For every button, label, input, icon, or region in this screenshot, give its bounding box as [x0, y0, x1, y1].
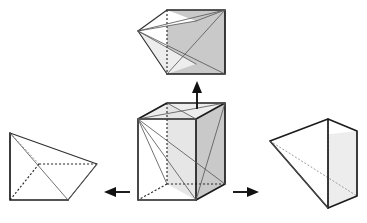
figure-root [0, 0, 367, 223]
pyramid-right[interactable] [270, 119, 357, 208]
pyramid-top[interactable] [138, 10, 225, 74]
central-cube[interactable] [138, 103, 225, 200]
arrow-left [104, 187, 130, 197]
pyramid-right-front-face [270, 119, 328, 208]
geometry-diagram [0, 0, 367, 223]
arrow-right [233, 187, 259, 197]
pyramid-left[interactable] [10, 133, 97, 200]
